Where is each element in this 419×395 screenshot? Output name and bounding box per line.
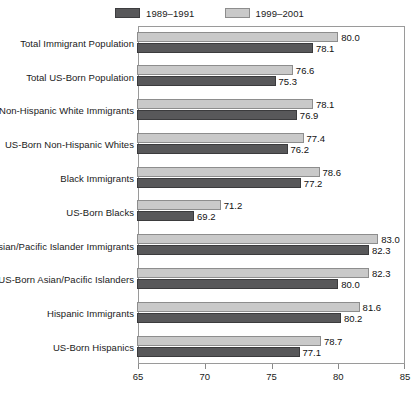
- bar-value-label: 81.6: [360, 301, 382, 312]
- category-label: US-Born Non-Hispanic Whites: [5, 139, 134, 150]
- bar-track: 78.7: [138, 336, 405, 346]
- axis-tick-label: 85: [400, 371, 411, 382]
- bar-dark: [137, 313, 341, 323]
- bar-track: 76.2: [138, 144, 405, 154]
- bar-value-label: 80.2: [341, 312, 363, 323]
- category-label: Black Immigrants: [60, 173, 134, 184]
- axis-tick: [272, 364, 273, 369]
- category-label: Hispanic Immigrants: [47, 308, 134, 319]
- bar-pair: 78.176.9: [138, 94, 405, 128]
- bar-group-row: US-Born Non-Hispanic Whites77.476.2: [0, 127, 419, 161]
- category-label: US-Born Blacks: [66, 206, 134, 217]
- axis-tick-label: 80: [333, 371, 344, 382]
- bar-pair: 77.476.2: [138, 127, 405, 161]
- bar-track: 76.9: [138, 110, 405, 120]
- axis-tick-label: 70: [199, 371, 210, 382]
- bar-light: [137, 65, 293, 75]
- bar-light: [137, 234, 378, 244]
- bar-value-label: 78.7: [321, 335, 343, 346]
- legend-entry-1989-1991: 1989–1991: [115, 8, 194, 19]
- x-axis: 6570758085: [138, 364, 405, 392]
- bar-light: [137, 133, 304, 143]
- bar-chart: 1989–1991 1999–2001 Total Immigrant Popu…: [0, 0, 419, 395]
- bar-value-label: 80.0: [338, 279, 360, 290]
- legend-label-1989-1991: 1989–1991: [146, 8, 194, 19]
- bar-group-row: Black Immigrants78.677.2: [0, 161, 419, 195]
- bar-dark: [137, 211, 194, 221]
- bar-group-row: US-Born Asian/Pacific Islanders82.380.0: [0, 263, 419, 297]
- bar-value-label: 77.4: [304, 132, 326, 143]
- bar-pair: 76.675.3: [138, 60, 405, 94]
- bar-value-label: 82.3: [369, 268, 391, 279]
- bar-track: 81.6: [138, 302, 405, 312]
- bar-dark: [137, 76, 276, 86]
- bar-dark: [137, 279, 338, 289]
- bar-value-label: 78.1: [313, 99, 335, 110]
- axis-tick: [404, 364, 405, 369]
- bar-dark: [137, 110, 297, 120]
- bar-group-row: Hispanic Immigrants81.680.2: [0, 296, 419, 330]
- bar-pair: 71.269.2: [138, 195, 405, 229]
- bar-value-label: 75.3: [276, 76, 298, 87]
- bar-track: 83.0: [138, 234, 405, 244]
- bar-track: 77.1: [138, 347, 405, 357]
- bar-value-label: 76.2: [288, 143, 310, 154]
- axis-tick: [338, 364, 339, 369]
- bar-value-label: 77.2: [301, 177, 323, 188]
- bar-track: 77.2: [138, 178, 405, 188]
- bar-light: [137, 268, 369, 278]
- bar-pair: 83.082.3: [138, 229, 405, 263]
- bar-value-label: 76.6: [293, 65, 315, 76]
- bar-group-row: Asian/Pacific Islander Immigrants83.082.…: [0, 229, 419, 263]
- bar-track: 75.3: [138, 76, 405, 86]
- bar-value-label: 83.0: [378, 234, 400, 245]
- bar-value-label: 78.6: [320, 166, 342, 177]
- bar-pair: 78.777.1: [138, 330, 405, 364]
- bar-pair: 82.380.0: [138, 263, 405, 297]
- bar-track: 80.0: [138, 32, 405, 42]
- bar-rows: Total Immigrant Population80.078.1Total …: [0, 26, 419, 364]
- bar-value-label: 76.9: [297, 110, 319, 121]
- light-swatch-icon: [225, 8, 250, 18]
- bar-dark: [137, 144, 288, 154]
- bar-group-row: US-Born Hispanics78.777.1: [0, 330, 419, 364]
- bar-light: [137, 32, 338, 42]
- bar-value-label: 71.2: [221, 200, 243, 211]
- bar-light: [137, 167, 320, 177]
- bar-dark: [137, 347, 300, 357]
- bar-value-label: 80.0: [338, 31, 360, 42]
- bar-group-row: Total US-Born Population76.675.3: [0, 60, 419, 94]
- bar-track: 71.2: [138, 200, 405, 210]
- category-label: Total US-Born Population: [26, 71, 134, 82]
- bar-dark: [137, 245, 369, 255]
- category-label: Asian/Pacific Islander Immigrants: [0, 240, 134, 251]
- bar-value-label: 82.3: [369, 245, 391, 256]
- bar-value-label: 78.1: [313, 42, 335, 53]
- bar-track: 80.0: [138, 279, 405, 289]
- bar-dark: [137, 178, 301, 188]
- bar-group-row: Total Immigrant Population80.078.1: [0, 26, 419, 60]
- bar-pair: 78.677.2: [138, 161, 405, 195]
- bar-light: [137, 99, 313, 109]
- bar-track: 76.6: [138, 65, 405, 75]
- bar-track: 78.6: [138, 167, 405, 177]
- category-label: Total Immigrant Population: [20, 37, 134, 48]
- bar-track: 82.3: [138, 245, 405, 255]
- bar-pair: 81.680.2: [138, 296, 405, 330]
- bar-light: [137, 302, 360, 312]
- category-label: US-Born Asian/Pacific Islanders: [0, 274, 134, 285]
- bar-track: 80.2: [138, 313, 405, 323]
- bar-pair: 80.078.1: [138, 26, 405, 60]
- chart-legend: 1989–1991 1999–2001: [0, 4, 419, 22]
- legend-entry-1999-2001: 1999–2001: [225, 8, 304, 19]
- bar-track: 82.3: [138, 268, 405, 278]
- bar-group-row: Non-Hispanic White Immigrants78.176.9: [0, 94, 419, 128]
- bar-group-row: US-Born Blacks71.269.2: [0, 195, 419, 229]
- axis-tick-label: 65: [133, 371, 144, 382]
- bar-track: 78.1: [138, 99, 405, 109]
- bar-value-label: 69.2: [194, 211, 216, 222]
- bar-track: 78.1: [138, 43, 405, 53]
- bar-dark: [137, 43, 313, 53]
- bar-light: [137, 200, 221, 210]
- legend-label-1999-2001: 1999–2001: [256, 8, 304, 19]
